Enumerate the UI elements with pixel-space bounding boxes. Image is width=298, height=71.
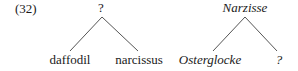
edge-right [102,17,138,51]
tree-leaf-label: daffodil [50,53,91,67]
tree-english-edges [70,17,138,51]
edge-right [245,17,277,51]
tree-german-edges [213,17,277,51]
tree-leaf-label: Osterglocke [179,53,241,67]
tree-root-label: ? [98,1,104,15]
tree-leaf-label: narcissus [115,53,163,67]
edge-left [213,17,245,51]
tree-leaf-label: ? [276,53,283,67]
tree-root-label: Narzisse [223,1,268,15]
diagram-canvas: (32) ? daffodil narcissus Narzisse Oster… [0,0,298,71]
edge-left [70,17,102,51]
